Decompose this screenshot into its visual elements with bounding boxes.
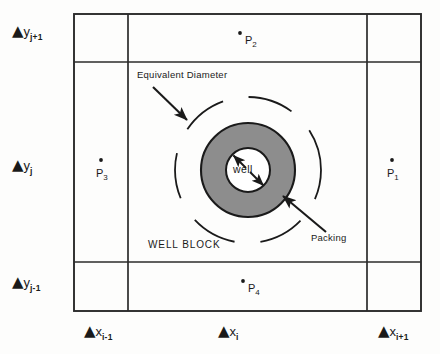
axis-label-dy-j-plus-1: ▲yj+1 — [12, 24, 43, 41]
packing-leader — [283, 196, 326, 232]
axis-label-dy-j: ▲yj — [12, 158, 33, 175]
annotation-packing: Packing — [311, 233, 347, 243]
point-subscript: 4 — [255, 288, 260, 297]
diagram-canvas — [0, 0, 440, 354]
point-label-p1: P1 — [387, 168, 399, 182]
axis-subscript: i — [236, 332, 239, 342]
point-label-p3: P3 — [96, 168, 108, 182]
point-marker-p3 — [99, 158, 103, 162]
annotation-well: well — [233, 164, 253, 175]
point-label-p2: P2 — [245, 35, 257, 49]
axis-label-dx-i-minus-1: ▲xi-1 — [84, 324, 113, 341]
delta-symbol: ▲ — [12, 273, 24, 291]
axis-subscript: i+1 — [396, 332, 409, 342]
axis-subscript: j+1 — [30, 32, 43, 42]
annotation-well-block: WELL BLOCK — [148, 240, 221, 250]
well-block-grid-diagram: ▲yj+1 ▲yj ▲yj-1 ▲xi-1 ▲xi ▲xi+1 P1 P2 P3… — [0, 0, 440, 354]
axis-label-dx-i-plus-1: ▲xi+1 — [378, 324, 409, 341]
point-marker-p2 — [238, 31, 242, 35]
delta-symbol: ▲ — [378, 322, 390, 340]
point-subscript: 2 — [252, 40, 257, 49]
delta-symbol: ▲ — [12, 156, 24, 174]
point-subscript: 1 — [394, 173, 399, 182]
delta-symbol: ▲ — [218, 322, 230, 340]
axis-subscript: i-1 — [102, 332, 113, 342]
axis-label-dx-i: ▲xi — [218, 324, 239, 341]
delta-symbol: ▲ — [84, 322, 96, 340]
axis-subscript: j-1 — [30, 283, 41, 293]
delta-symbol: ▲ — [12, 22, 24, 40]
axis-subscript: j — [30, 166, 33, 176]
point-marker-p4 — [241, 279, 245, 283]
point-subscript: 3 — [103, 173, 108, 182]
point-label-p4: P4 — [248, 283, 260, 297]
equivalent-diameter-leader — [153, 87, 187, 120]
annotation-equivalent-diameter: Equivalent Diameter — [137, 70, 227, 80]
axis-label-dy-j-minus-1: ▲yj-1 — [12, 275, 41, 292]
point-marker-p1 — [390, 158, 394, 162]
